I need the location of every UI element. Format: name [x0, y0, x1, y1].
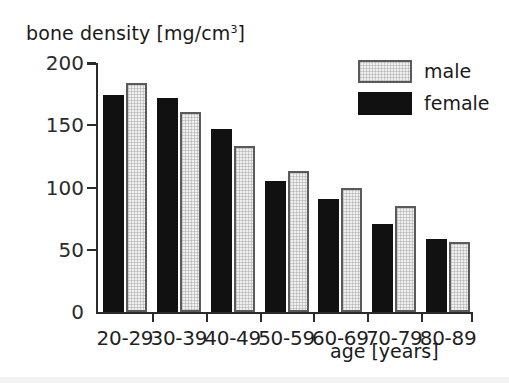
y-axis-tick-label: 200: [46, 53, 84, 73]
y-axis-tick-mark: [87, 249, 96, 251]
x-axis-tick-mark: [367, 314, 369, 322]
bar-male: [395, 206, 416, 312]
x-axis-tick-mark: [421, 314, 423, 322]
y-axis-tick-mark: [87, 124, 96, 126]
x-axis-category-label: 40-49: [204, 327, 261, 349]
x-axis-tick-mark: [206, 314, 208, 322]
bar-male: [234, 146, 255, 312]
bar-female: [426, 239, 447, 312]
bone-density-bar-chart: bone density [mg/cm3] male female 050100…: [0, 0, 509, 383]
bar-male: [126, 83, 147, 312]
bar-female: [103, 95, 124, 312]
x-axis-category-label: 20-29: [97, 327, 154, 349]
bar-male: [341, 188, 362, 313]
y-axis-tick-label: 0: [71, 302, 84, 322]
y-axis-title-exponent: 3: [230, 23, 237, 36]
bar-female: [157, 98, 178, 312]
bar-female: [211, 129, 232, 312]
y-axis-tick-label: 100: [46, 178, 84, 198]
page-bottom-edge: [0, 377, 509, 383]
plot-area: 050100150200 20-2930-3940-4950-5960-6970…: [96, 63, 473, 312]
x-axis-end-tick-mark: [471, 314, 473, 322]
x-axis-title: age [years]: [330, 341, 439, 362]
x-axis-tick-mark: [260, 314, 262, 322]
y-axis-tick-mark: [87, 187, 96, 189]
x-axis-tick-mark: [152, 314, 154, 322]
x-axis-tick-mark: [313, 314, 315, 322]
bar-female: [372, 224, 393, 312]
x-axis-category-label: 30-39: [150, 327, 207, 349]
y-axis-title: bone density [mg/cm3]: [26, 22, 245, 44]
y-axis-top-tick-mark: [87, 63, 96, 65]
bar-female: [265, 181, 286, 312]
bar-male: [180, 112, 201, 312]
bar-female: [318, 199, 339, 312]
y-axis-tick-label: 50: [59, 240, 84, 260]
bar-male: [449, 242, 470, 312]
y-axis-title-tail: ]: [238, 22, 246, 44]
y-axis-tick-label: 150: [46, 115, 84, 135]
y-axis-line: [96, 63, 98, 312]
bar-male: [288, 171, 309, 312]
x-axis-category-label: 50-59: [258, 327, 315, 349]
y-axis-title-text: bone density [mg/cm: [26, 22, 230, 44]
